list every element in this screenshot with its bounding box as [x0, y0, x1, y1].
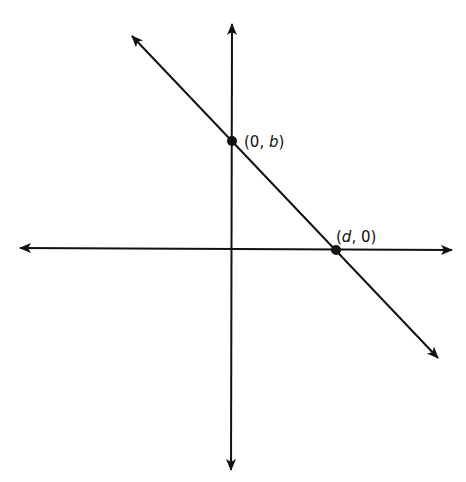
sloped-line	[132, 36, 438, 358]
label-x-intercept: (d, 0)	[336, 228, 376, 246]
point-y-intercept	[227, 136, 237, 146]
label-y-intercept: (0, b)	[244, 133, 284, 151]
coordinate-diagram: (0, b) (d, 0)	[0, 0, 466, 482]
y-axis	[231, 24, 232, 470]
x-axis	[20, 248, 452, 250]
point-x-intercept	[331, 245, 341, 255]
